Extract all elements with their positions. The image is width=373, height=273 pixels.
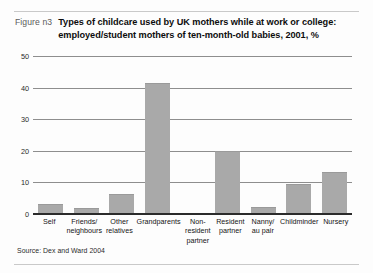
y-axis-tick-label: 40 xyxy=(21,84,29,91)
x-axis-tick-label: Childminder xyxy=(279,217,319,245)
x-axis-tick-label: Friends/neighbours xyxy=(66,217,104,245)
x-axis-tick-label: Nursery xyxy=(319,217,352,245)
y-axis-tick-label: 20 xyxy=(21,147,29,154)
x-axis-tick-label: Grandparents xyxy=(136,217,182,245)
x-axis-tick-label: Residentpartner xyxy=(214,217,247,245)
y-axis-tick-label: 50 xyxy=(21,53,29,60)
bar-slot xyxy=(281,56,316,214)
x-axis-tick-label: Non-residentpartner xyxy=(182,217,215,245)
bar-slot xyxy=(68,56,103,214)
bar xyxy=(109,194,134,214)
bar-slot xyxy=(246,56,281,214)
x-axis-line xyxy=(33,213,352,215)
chart-plot: 01020304050 SelfFriends/neighboursOtherr… xyxy=(0,0,373,273)
bottom-divider xyxy=(14,264,359,265)
x-axis-tick-label: Nanny/au pair xyxy=(247,217,280,245)
y-axis-tick-label: 30 xyxy=(21,116,29,123)
bar-slot xyxy=(210,56,245,214)
bar xyxy=(286,184,311,214)
figure-card: Figure n3 Types of childcare used by UK … xyxy=(0,0,373,273)
x-axis-labels: SelfFriends/neighboursOtherrelativesGran… xyxy=(33,217,352,245)
bar xyxy=(215,151,240,214)
y-axis-tick-label: 0 xyxy=(25,211,29,218)
bar-slot xyxy=(317,56,352,214)
bar xyxy=(322,172,347,214)
bar-slot xyxy=(104,56,139,214)
source-note: Source: Dex and Ward 2004 xyxy=(17,247,105,254)
bar-series xyxy=(33,56,352,214)
bar-slot xyxy=(139,56,174,214)
x-axis-tick-label: Otherrelatives xyxy=(103,217,136,245)
y-axis-tick-label: 10 xyxy=(21,179,29,186)
bar-slot xyxy=(33,56,68,214)
x-axis-tick-label: Self xyxy=(33,217,66,245)
bar xyxy=(145,83,170,214)
bar-slot xyxy=(175,56,210,214)
